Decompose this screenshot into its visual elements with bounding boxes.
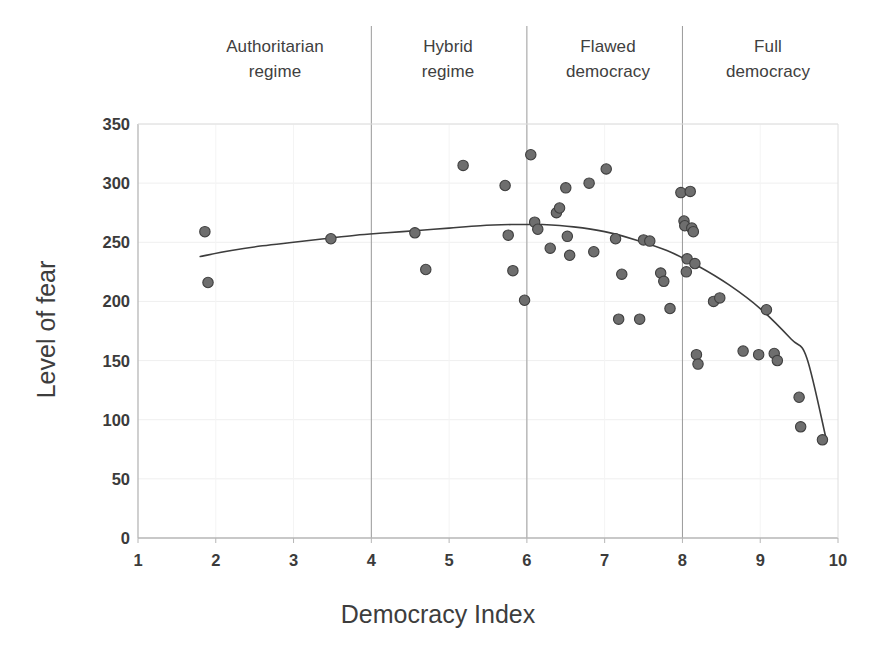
data-point [690,258,700,268]
data-point [817,435,827,445]
y-tick-label: 300 [84,174,130,193]
x-tick-label: 8 [662,551,702,570]
data-point [613,314,623,324]
data-point [685,186,695,196]
region-divider-lines [371,26,682,538]
data-point [533,224,543,234]
x-tick-label: 9 [740,551,780,570]
data-point [617,269,627,279]
data-point [688,226,698,236]
data-point [794,392,804,402]
data-point [772,355,782,365]
y-tick-label: 50 [84,469,130,488]
region-label-full-democracy: Full democracy [678,34,858,84]
data-point [554,203,564,213]
gridlines [138,124,838,538]
data-point [526,150,536,160]
y-axis-title: Level of fear [32,180,61,480]
data-point [564,250,574,260]
x-tick-label: 7 [585,551,625,570]
data-point [458,160,468,170]
data-point [693,359,703,369]
x-tick-label: 6 [507,551,547,570]
data-point [326,234,336,244]
x-tick-label: 1 [118,551,158,570]
data-point [715,293,725,303]
x-tick-label: 2 [196,551,236,570]
data-point [601,164,611,174]
data-point [519,295,529,305]
data-point [203,277,213,287]
data-point [645,236,655,246]
y-tick-label: 100 [84,410,130,429]
data-point [681,267,691,277]
y-tick-label: 0 [84,529,130,548]
region-label-authoritarian-regime: Authoritarian regime [150,34,400,84]
x-tick-marks [138,538,838,543]
data-point [691,349,701,359]
data-point [753,349,763,359]
data-point [795,422,805,432]
data-point [508,265,518,275]
x-axis-tick-labels: 12345678910 [0,551,876,581]
y-tick-label: 200 [84,292,130,311]
data-point [584,178,594,188]
x-tick-label: 3 [274,551,314,570]
data-point [561,183,571,193]
data-point [665,303,675,313]
data-point [410,228,420,238]
trend-line [200,224,826,439]
region-label-flawed-democracy: Flawed democracy [518,34,698,84]
data-point [676,187,686,197]
data-point [421,264,431,274]
y-tick-label: 350 [84,115,130,134]
x-tick-label: 10 [818,551,858,570]
data-point [634,314,644,324]
data-point [659,276,669,286]
region-label-hybrid-regime: Hybrid regime [368,34,528,84]
scatter-chart-figure: Authoritarian regime Hybrid regime Flawe… [0,0,876,654]
data-point [500,180,510,190]
x-tick-label: 5 [429,551,469,570]
data-point [562,231,572,241]
data-point [589,247,599,257]
data-point [761,305,771,315]
y-tick-label: 250 [84,233,130,252]
data-point [738,346,748,356]
data-point [503,230,513,240]
x-tick-label: 4 [351,551,391,570]
data-point [545,243,555,253]
data-point [200,226,210,236]
axis-lines [138,124,838,538]
data-point [610,234,620,244]
y-tick-label: 150 [84,351,130,370]
x-axis-title: Democracy Index [0,600,876,629]
